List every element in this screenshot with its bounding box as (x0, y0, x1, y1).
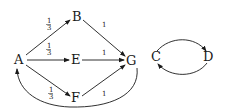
node-d: D (203, 49, 213, 64)
edge-a-f (26, 65, 70, 96)
svg-text:3: 3 (49, 93, 53, 101)
svg-text:3: 3 (47, 24, 51, 32)
weight-a-b: 1 3 (46, 17, 51, 32)
weight-a-f: 1 3 (48, 86, 53, 101)
node-e: E (71, 52, 81, 67)
weight-f-g: 1 (102, 90, 106, 98)
weight-e-g: 1 (102, 49, 106, 57)
node-f: F (71, 90, 80, 105)
markov-chain-diagram: A B E F G C D 1 3 1 3 1 3 1 1 1 (0, 0, 225, 111)
node-c: C (151, 49, 161, 64)
edge-c-d (157, 40, 206, 51)
node-a: A (13, 52, 24, 67)
node-b: B (72, 9, 82, 24)
node-g: G (126, 53, 136, 68)
weight-b-g: 1 (102, 21, 106, 29)
svg-text:3: 3 (47, 49, 51, 57)
edge-d-c (158, 63, 207, 74)
weight-a-e: 1 3 (46, 42, 51, 57)
